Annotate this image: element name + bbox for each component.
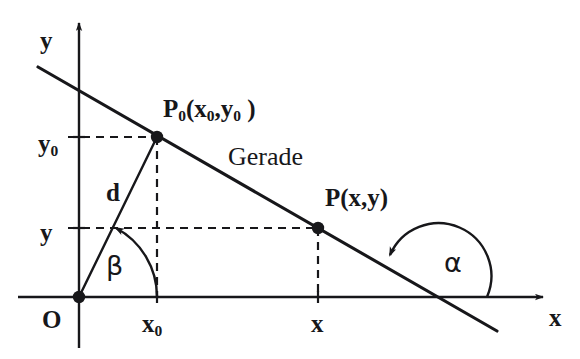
y-axis-label: y [40, 28, 53, 53]
tick-label-x0: x0 [142, 311, 162, 336]
point-p0-label: P0(x0,y0 ) [163, 96, 256, 121]
angle-alpha-arc [390, 223, 491, 297]
point-p0-label-main: P [163, 95, 178, 122]
point-origin-dot [73, 291, 85, 303]
point-p0-label-open: (x [186, 95, 207, 122]
point-p0-label-comma: ,y [215, 95, 234, 122]
point-p0-label-x-sub: 0 [207, 107, 215, 124]
point-p0-label-sub: 0 [178, 107, 186, 124]
tick-label-y0-sub: 0 [51, 142, 59, 159]
origin-label: O [42, 307, 61, 332]
point-p-label: P(x,y) [325, 185, 388, 210]
tick-label-x0-sub: 0 [155, 322, 163, 339]
point-p-dot [312, 222, 324, 234]
point-p0-dot [151, 131, 163, 143]
x-axis-label: x [549, 305, 562, 330]
tick-label-y0-main: y [38, 130, 51, 157]
tick-label-y: y [40, 220, 53, 245]
angle-alpha-label: α [444, 249, 462, 276]
tick-label-y0: y0 [38, 131, 58, 156]
point-p0-label-y-sub: 0 [233, 107, 241, 124]
angle-beta-label: β [106, 252, 123, 279]
distance-label-d: d [106, 180, 120, 205]
geometry-figure: y x O y0 y x0 x P0(x0,y0 ) P(x,y) Gerade… [0, 0, 580, 359]
tick-label-x: x [311, 311, 324, 336]
gerade-label: Gerade [228, 144, 303, 170]
tick-label-x0-main: x [142, 310, 155, 337]
figure-canvas [0, 0, 580, 359]
point-p0-label-close: ) [241, 95, 256, 122]
